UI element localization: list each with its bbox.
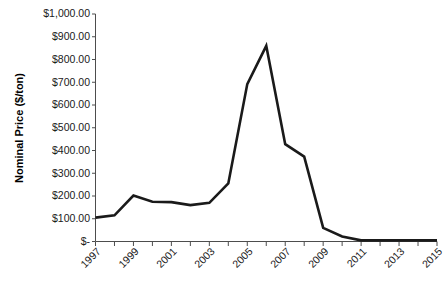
x-axis-tick-label: 2015 [419,245,444,270]
y-axis-tick-label: $900.00 [52,30,90,42]
x-axis-tick-label: 2013 [381,245,406,270]
y-axis-tick-labels: $-$100.00$200.00$300.00$400.00$500.00$60… [43,7,90,247]
x-axis-tick-label: 2005 [230,245,255,270]
y-axis-tick-label: $300.00 [52,167,90,179]
y-axis-tick-label: $700.00 [52,76,90,88]
y-axis-tick-label: $600.00 [52,98,90,110]
y-axis-tick-label: $1,000.00 [43,7,90,19]
x-axis-tick-marks [96,242,438,247]
y-axis-tick-label: $800.00 [52,53,90,65]
y-axis-tick-marks [92,14,96,242]
data-series-line [96,46,438,241]
line-chart: Nominal Price ($/ton) $-$100.00$200.00$3… [0,0,444,283]
x-axis-tick-labels: 1997199920012003200520072009201120132015 [78,245,444,270]
x-axis-tick-label: 2001 [154,245,179,270]
y-axis-tick-label: $100.00 [52,212,90,224]
y-axis-tick-label: $200.00 [52,189,90,201]
x-axis-tick-label: 2009 [306,245,331,270]
y-axis-title: Nominal Price ($/ton) [13,73,25,183]
x-axis-tick-label: 2003 [192,245,217,270]
y-axis-title-text: Nominal Price ($/ton) [13,73,25,183]
chart-canvas: Nominal Price ($/ton) $-$100.00$200.00$3… [0,0,444,283]
y-axis-tick-label: $500.00 [52,121,90,133]
y-axis-tick-label: $400.00 [52,144,90,156]
x-axis-tick-label: 1999 [116,245,141,270]
x-axis-tick-label: 1997 [78,245,103,270]
y-axis-tick-label: $- [81,235,91,247]
x-axis-tick-label: 2007 [268,245,293,270]
x-axis-tick-label: 2011 [344,245,369,270]
